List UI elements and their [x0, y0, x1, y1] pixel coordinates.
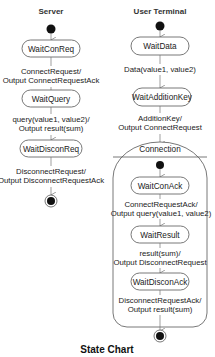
terminal-header: User Terminal [134, 7, 187, 16]
diagram-title: State Chart [80, 344, 134, 355]
transition-label: Output DisconnectRequestAck [0, 176, 104, 185]
terminal-initial-state [156, 22, 165, 31]
state-label: WaitConReq [28, 45, 75, 54]
server-header: Server [39, 7, 64, 16]
state-label: WaitDisconAck [133, 278, 189, 287]
composite-state-name: Connection [139, 145, 181, 154]
transition-label: DisconnectRequest/ [16, 167, 87, 176]
transition-label: Data(value1, value2) [124, 65, 196, 74]
connection-initial-state [156, 161, 164, 169]
transition-label: AdditionKey/ [138, 114, 183, 123]
transition-label: query(value1, value2)/ [12, 115, 90, 124]
state-chart-diagram: Server WaitConReq ConnectRequest/ Output… [0, 0, 215, 357]
transition-label: result(sum)/ [139, 249, 181, 258]
transition-label: Output result(sum) [128, 305, 193, 314]
state-label: WaitDisconReq [23, 145, 80, 154]
state-label: WaitAdditionKey [132, 93, 193, 102]
transition-label: DisconnectRequestAck/ [119, 296, 203, 305]
state-label: WaitData [143, 42, 177, 51]
transition-label: Output result(sum) [19, 124, 84, 133]
transition-label: ConnectRequestAck/ [124, 200, 198, 209]
terminal-final-state-core [156, 332, 164, 340]
server-final-state-core [47, 197, 55, 205]
transition-label: Output query(value1, value2) [111, 209, 212, 218]
transition-label: Output ConnectRequestAck [3, 76, 100, 85]
state-label: WaitConAck [138, 182, 184, 191]
transition-label: Output ConnectRequest [118, 123, 202, 132]
transition-label: ConnectRequest/ [21, 67, 82, 76]
state-label: WaitQuery [32, 95, 71, 104]
transition-label: Output DisconnectRequest [113, 258, 207, 267]
server-initial-state [47, 25, 56, 34]
state-label: WaitResult [140, 231, 180, 240]
